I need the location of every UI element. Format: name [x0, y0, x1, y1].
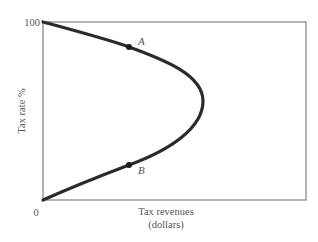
- point-b-label: B: [138, 164, 145, 176]
- point-b-marker: [126, 162, 132, 168]
- x-tick-0: 0: [33, 207, 38, 218]
- plot-frame: [43, 22, 306, 200]
- point-a-label: A: [137, 35, 145, 47]
- y-tick-100: 100: [24, 17, 40, 28]
- y-axis-label: Tax rate %: [16, 88, 27, 134]
- laffer-curve-chart: A B 100 0 Tax rate % Tax revenues (dolla…: [0, 0, 318, 242]
- point-a-marker: [126, 44, 132, 50]
- x-axis-label-line1: Tax revenues: [138, 206, 194, 217]
- x-axis-label-line2: (dollars): [148, 219, 184, 231]
- laffer-curve: [43, 22, 203, 200]
